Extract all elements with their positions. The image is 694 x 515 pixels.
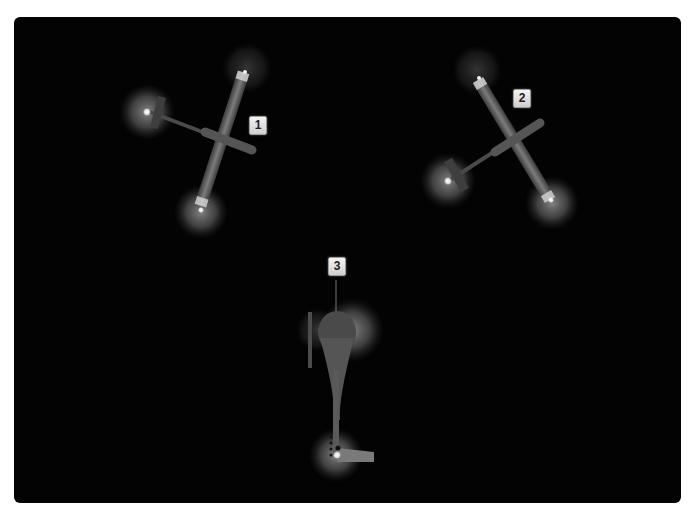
- aircraft-label-2: 2: [513, 89, 531, 108]
- wingtip-light-glow: [525, 176, 579, 230]
- wingtip-light-glow: [222, 43, 272, 93]
- illustration-panel: 1 2 3: [14, 17, 681, 503]
- aircraft-label-1: 1: [249, 116, 267, 135]
- aircraft-2: [420, 45, 579, 230]
- aircraft-label-3: 3: [328, 257, 346, 276]
- fuselage: [333, 370, 339, 455]
- aircraft-1: [119, 43, 272, 239]
- aircraft-illustration: [14, 17, 681, 503]
- wing: [308, 312, 312, 368]
- aircraft-3: [296, 280, 384, 482]
- horizontal-stabilizer: [337, 448, 374, 462]
